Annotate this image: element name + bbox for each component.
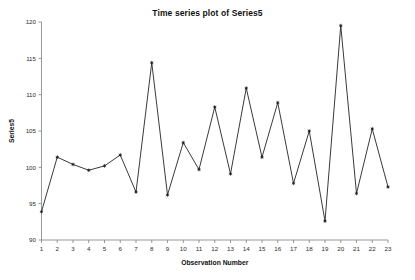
x-tick-label: 18 [306, 245, 313, 252]
x-tick-label: 7 [134, 245, 138, 252]
series-group [40, 24, 390, 223]
y-tick-label: 100 [26, 164, 37, 171]
x-tick-label: 11 [196, 245, 203, 252]
x-tick-label: 6 [119, 245, 123, 252]
x-axis-title: Observation Number [181, 259, 249, 266]
x-tick-label: 23 [385, 245, 392, 252]
x-tick-label: 10 [180, 245, 187, 252]
data-point-marker [371, 127, 374, 131]
data-point-marker [40, 210, 43, 214]
data-point-marker [339, 24, 342, 28]
x-axis: 1234567891011121314151617181920212223 [40, 240, 392, 252]
x-tick-label: 20 [337, 245, 344, 252]
x-tick-label: 16 [274, 245, 281, 252]
x-tick-label: 17 [290, 245, 297, 252]
data-point-marker [323, 219, 326, 223]
series-line [42, 26, 389, 221]
data-point-marker [213, 105, 216, 109]
plot-area: 9095100105110115120 12345678910111213141… [0, 0, 415, 280]
data-point-marker [245, 86, 248, 90]
y-tick-label: 110 [26, 91, 36, 98]
data-point-marker [308, 129, 311, 133]
data-point-marker [229, 172, 232, 176]
x-tick-label: 1 [40, 245, 44, 252]
x-tick-label: 3 [71, 245, 75, 252]
x-tick-label: 21 [353, 245, 360, 252]
x-tick-label: 12 [211, 245, 218, 252]
data-point-marker [134, 190, 137, 194]
data-point-marker [292, 181, 295, 185]
x-tick-label: 15 [259, 245, 266, 252]
x-tick-label: 8 [150, 245, 154, 252]
x-tick-label: 2 [56, 245, 60, 252]
y-axis: 9095100105110115120 [26, 18, 42, 243]
data-point-marker [355, 192, 358, 196]
data-point-marker [166, 193, 169, 197]
data-point-marker [260, 155, 263, 159]
x-tick-label: 22 [369, 245, 376, 252]
x-tick-label: 9 [166, 245, 170, 252]
x-tick-label: 13 [227, 245, 234, 252]
x-tick-label: 5 [103, 245, 107, 252]
y-tick-label: 90 [29, 236, 36, 243]
x-tick-label: 14 [243, 245, 250, 252]
y-tick-label: 120 [26, 18, 37, 25]
y-tick-label: 105 [26, 127, 37, 134]
time-series-chart: Time series plot of Series5 909510010511… [0, 0, 415, 280]
y-axis-title: Series5 [8, 119, 15, 143]
y-tick-label: 95 [29, 200, 36, 207]
data-point-marker [386, 185, 389, 189]
x-tick-label: 19 [322, 245, 329, 252]
data-point-marker [276, 101, 279, 105]
data-point-marker [150, 61, 153, 65]
y-tick-label: 115 [26, 55, 36, 62]
x-tick-label: 4 [87, 245, 91, 252]
